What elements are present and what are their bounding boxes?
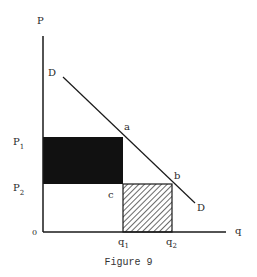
figure-caption: Figure 9 bbox=[0, 257, 257, 268]
p2-label: P2 bbox=[13, 182, 24, 197]
demand-end-label: D bbox=[197, 202, 205, 213]
p1-label: P1 bbox=[13, 136, 24, 151]
y-axis-label: P bbox=[37, 15, 44, 26]
hatched-rectangle bbox=[123, 184, 172, 232]
point-a-label: a bbox=[124, 121, 130, 132]
x-axis-label: q bbox=[235, 225, 242, 236]
demand-start-label: D bbox=[48, 67, 56, 78]
demand-diagram: P q 0 D D a b c P1 P2 q1 q2 Figure 9 bbox=[0, 0, 257, 277]
q1-label: q1 bbox=[118, 236, 129, 250]
point-c-label: c bbox=[108, 189, 114, 200]
point-b-label: b bbox=[174, 170, 180, 181]
solid-rectangle bbox=[43, 137, 123, 184]
origin-label: 0 bbox=[32, 228, 37, 237]
q2-label: q2 bbox=[166, 236, 177, 250]
